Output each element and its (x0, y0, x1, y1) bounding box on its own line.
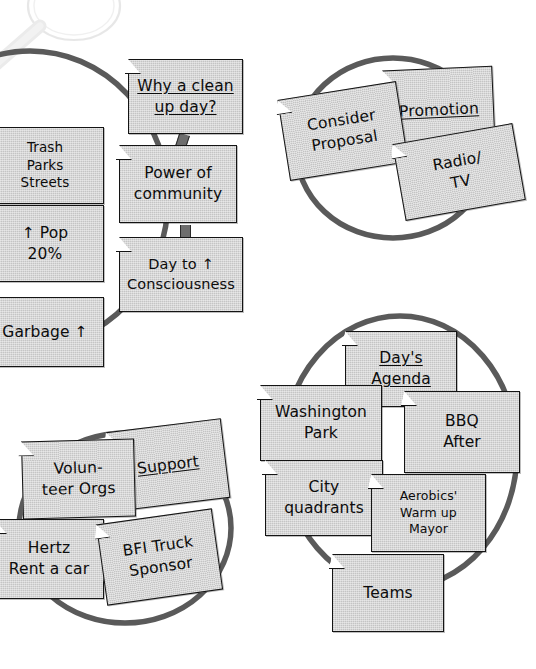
note-text: Washington Park (269, 402, 373, 443)
note-text: Why a clean up day? (131, 76, 239, 117)
note-text: Power of community (128, 163, 228, 204)
note-text: Hertz Rent a car (3, 538, 95, 579)
note-day-to-consciousness[interactable]: Day to ↑ Consciousness (119, 237, 243, 312)
note-hertz-rent-a-car[interactable]: Hertz Rent a car (0, 519, 104, 599)
note-garbage[interactable]: Garbage ↑ (0, 297, 104, 367)
note-teams[interactable]: Teams (332, 554, 444, 632)
note-text: Trash Parks Streets (15, 139, 76, 193)
note-volunteer-orgs[interactable]: Volun- teer Orgs (21, 439, 136, 520)
note-power-of-community[interactable]: Power of community (119, 145, 237, 223)
mind-map-canvas: Why a clean up day? Trash Parks Streets … (0, 0, 536, 669)
note-text: BFI Truck Sponsor (116, 531, 204, 583)
note-trash-parks-streets[interactable]: Trash Parks Streets (0, 127, 104, 204)
note-washington-park[interactable]: Washington Park (260, 385, 382, 461)
note-text: Teams (357, 583, 419, 604)
note-text: Day to ↑ Consciousness (121, 255, 241, 294)
note-text: City quadrants (278, 477, 370, 518)
note-consider-proposal[interactable]: Consider Proposal (277, 81, 408, 181)
note-text: Garbage ↑ (0, 322, 94, 343)
note-text: Consider Proposal (300, 104, 387, 157)
note-text: Day's Agenda (365, 348, 437, 389)
note-text: Promotion (393, 98, 486, 123)
note-bbq-after[interactable]: BBQ After (404, 391, 520, 473)
note-text: ↑ Pop 20% (16, 223, 75, 264)
note-text: Support (130, 450, 206, 479)
note-text: BBQ After (437, 411, 487, 452)
note-pop-20-percent[interactable]: ↑ Pop 20% (0, 205, 104, 282)
note-aerobics-warm-up-mayor[interactable]: Aerobics' Warm up Mayor (371, 474, 486, 552)
note-text: Volun- teer Orgs (35, 457, 122, 500)
note-city-quadrants[interactable]: City quadrants (265, 460, 383, 536)
note-text: Aerobics' Warm up Mayor (394, 488, 464, 538)
note-bfi-truck-sponsor[interactable]: BFI Truck Sponsor (96, 508, 223, 605)
note-text: Radio/ TV (425, 146, 493, 197)
magnifying-glass-icon (0, 0, 126, 70)
note-why-a-clean-up-day[interactable]: Why a clean up day? (128, 59, 243, 134)
